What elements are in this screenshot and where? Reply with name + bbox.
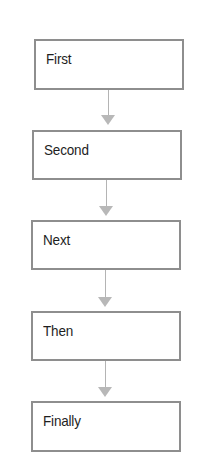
step-label: First	[46, 50, 71, 67]
step-label: Next	[43, 231, 70, 248]
step-box-finally: Finally	[31, 401, 181, 452]
arrow-down-icon	[98, 387, 112, 397]
connector-line	[108, 90, 109, 116]
arrow-down-icon	[98, 297, 112, 307]
step-box-second: Second	[32, 130, 182, 180]
connector-line	[105, 361, 106, 390]
flowchart: First Second Next Then Finally	[0, 0, 200, 472]
step-label: Second	[44, 141, 89, 158]
step-label: Finally	[43, 412, 81, 429]
step-box-then: Then	[31, 311, 181, 361]
step-box-first: First	[34, 39, 184, 90]
step-label: Then	[43, 322, 73, 339]
arrow-down-icon	[99, 206, 113, 216]
step-box-next: Next	[31, 220, 181, 270]
connector-line	[105, 270, 106, 300]
arrow-down-icon	[101, 115, 115, 125]
connector-line	[106, 180, 107, 207]
